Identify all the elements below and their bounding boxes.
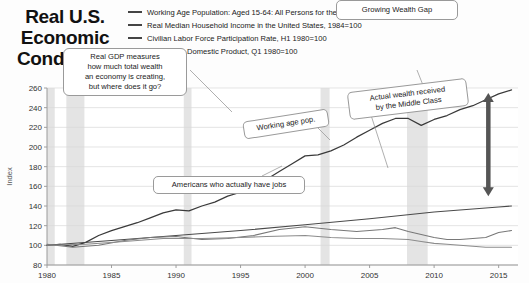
x-axis-tick-label: 2010 xyxy=(425,271,443,280)
y-axis-title: Index xyxy=(5,167,14,186)
legend-label: Civilian Labor Force Participation Rate,… xyxy=(147,34,327,43)
y-axis-tick-label: 180 xyxy=(29,163,43,172)
legend-swatch-icon xyxy=(128,24,142,26)
title-line-1: Real U.S. xyxy=(6,6,124,27)
y-axis-tick-label: 220 xyxy=(29,123,43,132)
legend-item-labor-force: Civilian Labor Force Participation Rate,… xyxy=(128,32,526,44)
legend-item-median-income: Real Median Household Income in the Unit… xyxy=(128,19,526,31)
y-axis-tick-label: 260 xyxy=(29,84,43,93)
x-axis-tick-label: 1985 xyxy=(103,271,121,280)
y-axis-tick-label: 240 xyxy=(29,104,43,113)
recession-band xyxy=(407,88,428,265)
x-axis-tick-label: 1995 xyxy=(232,271,250,280)
y-axis-tick-label: 140 xyxy=(29,202,43,211)
title-line-2: Economic xyxy=(6,27,124,48)
legend-label: Real Median Household Income in the Unit… xyxy=(147,21,362,30)
legend-swatch-icon xyxy=(128,37,142,39)
chart-screenshot: Real U.S. Economic Conditions Working Ag… xyxy=(0,0,529,283)
y-axis-tick-label: 80 xyxy=(33,261,42,270)
x-axis-tick-label: 2005 xyxy=(361,271,379,280)
x-axis-tick-label: 1990 xyxy=(167,271,185,280)
y-axis-tick-label: 120 xyxy=(29,222,43,231)
x-axis-tick-label: 2015 xyxy=(490,271,508,280)
annotation-gdp-note: Real GDP measures how much total wealth … xyxy=(63,48,187,96)
x-axis-tick-label: 2000 xyxy=(296,271,314,280)
annotation-growing-wealth-gap: Growing Wealth Gap xyxy=(336,0,458,20)
recession-band xyxy=(47,88,55,265)
legend-item-real-gdp: Real Gross Domestic Product, Q1 1980=100 xyxy=(128,45,526,57)
legend-swatch-icon xyxy=(128,11,142,13)
annotation-jobs-note: Americans who actually have jobs xyxy=(153,176,305,194)
x-axis-tick-label: 1980 xyxy=(38,271,56,280)
y-axis-tick-label: 100 xyxy=(29,241,43,250)
y-axis-tick-label: 160 xyxy=(29,182,43,191)
y-axis-tick-label: 200 xyxy=(29,143,43,152)
chart-legend: Working Age Population: Aged 15-64: All … xyxy=(128,6,526,58)
legend-item-working-age: Working Age Population: Aged 15-64: All … xyxy=(128,6,526,18)
recession-band xyxy=(66,88,84,265)
